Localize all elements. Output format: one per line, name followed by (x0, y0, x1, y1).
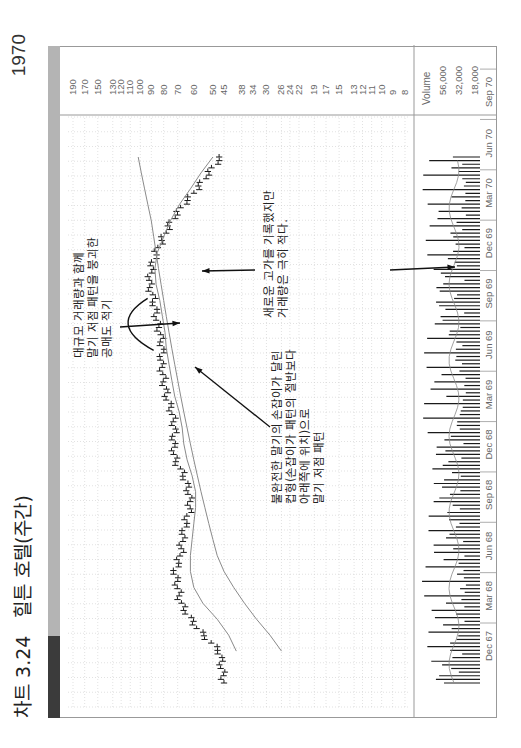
volume-tick-label: 56,000 (437, 66, 448, 95)
price-tick-label: 22 (293, 84, 304, 95)
date-label: Jun 68 (483, 532, 494, 561)
price-tick-label: 150 (92, 79, 103, 95)
date-label: Dec 67 (483, 631, 494, 661)
arrow-new-high-price (202, 270, 255, 271)
chart-title: 힐튼 호텔(주간) (8, 495, 35, 618)
price-tick-label: 30 (260, 84, 271, 95)
price-tick-label: 80 (158, 84, 169, 95)
date-label: Dec 68 (483, 429, 494, 459)
date-label: Mar 68 (483, 581, 494, 611)
price-tick-label: 70 (172, 84, 183, 95)
date-label: Sep 68 (483, 480, 494, 510)
annotation-cup-handle: 불완전한 말기의 손잡이가 달린 컵형(손잡이가 패턴의 절반보다 아래쪽에 위… (270, 349, 326, 504)
price-tick-label: 190 (67, 79, 78, 95)
annotation-new-high: 새로운 고가를 기록했지만 거래량은 극히 적다. (262, 190, 290, 318)
price-tick-label: 45 (218, 84, 229, 95)
volume-tick-label: 18,000 (469, 66, 480, 95)
price-tick-label: 10 (376, 84, 387, 95)
title-row: 차트 3.24 힐튼 호텔(주간) 1970 (0, 0, 44, 748)
date-label: Mar 70 (483, 178, 494, 208)
date-label: Jun 70 (483, 129, 494, 158)
price-tick-label: 38 (236, 84, 247, 95)
volume-scale-label: Volume (421, 71, 432, 105)
price-tick-label: 19 (308, 84, 319, 95)
price-tick-label: 50 (207, 84, 218, 95)
date-label: Mar 69 (483, 380, 494, 410)
rotated-chart-page: 차트 3.24 힐튼 호텔(주간) 1970 Price Scale190170… (0, 0, 521, 748)
year-label: 1970 (8, 34, 30, 76)
price-tick-label: 100 (134, 79, 145, 95)
price-tick-label: 170 (79, 79, 90, 95)
arrow-short-sale-head (172, 321, 180, 326)
moving-average-line (138, 157, 281, 651)
date-label: Dec 69 (483, 228, 494, 258)
price-tick-label: 15 (333, 84, 344, 95)
price-tick-label: 17 (320, 84, 331, 95)
price-tick-label: 9 (387, 90, 398, 95)
date-label: Sep 70 (483, 77, 494, 107)
moving-average-line (155, 157, 236, 651)
volume-tick-label: 32,000 (453, 66, 464, 95)
price-tick-label: 8 (399, 90, 410, 95)
price-tick-label: 34 (247, 84, 258, 95)
header-band-light (48, 46, 60, 636)
header-band-dark (48, 636, 60, 718)
date-label: Sep 69 (483, 278, 494, 308)
arrow-new-high-price-head (202, 268, 210, 273)
price-tick-label: 60 (188, 84, 199, 95)
date-label: Jun 69 (483, 330, 494, 359)
annotation-short-sale: 대규모 거래량과 함께 말기 저점 패턴을 붕괴한 공매도 적기 (72, 237, 114, 358)
figure-number: 차트 3.24 (8, 636, 35, 718)
price-tick-label: 90 (145, 84, 156, 95)
